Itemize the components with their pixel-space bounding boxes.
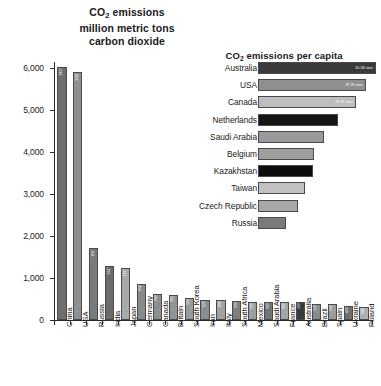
x-axis-tick — [102, 320, 103, 325]
x-axis-tick — [245, 320, 246, 325]
column-bar-value-label: 436 — [249, 303, 253, 309]
x-axis-tick — [277, 320, 278, 325]
bar-category-label: Saudi Arabia — [210, 132, 257, 142]
horizontal-bar-value-label: 20.58 tons — [355, 66, 373, 70]
x-axis-tick — [340, 320, 341, 325]
bar-row: USA19.78 tons — [196, 79, 376, 92]
horizontal-bar[interactable] — [258, 148, 314, 160]
y-axis-line — [54, 62, 55, 321]
column-bar-value-label: 468 — [217, 301, 221, 307]
y-axis-tick-label: 3,000 — [4, 189, 44, 199]
bar-row: Kazakhstan — [196, 165, 376, 178]
y-axis-tick-label: 4,000 — [4, 147, 44, 157]
x-axis-tick — [134, 320, 135, 325]
bar-row: Czech Republic — [196, 200, 376, 213]
x-axis-tick — [324, 320, 325, 325]
column-bar-value-label: 329 — [344, 307, 348, 313]
column-bar-value-label: 1,247 — [122, 268, 126, 277]
bar-category-label: Belgium — [227, 149, 257, 159]
x-axis-tick — [70, 320, 71, 325]
y-axis-tick — [50, 236, 54, 237]
y-axis-tick-label: 5,000 — [4, 105, 44, 115]
column-bar-value-label: 471 — [201, 301, 205, 307]
horizontal-bar[interactable] — [258, 217, 286, 229]
column-bar-value-label: 418 — [281, 303, 285, 309]
column-bar-value-label: 1,293 — [106, 266, 110, 275]
bar-row: Canada18.81 tons — [196, 96, 376, 109]
y-axis-tick-label: 2,000 — [4, 231, 44, 241]
bar-category-label: Czech Republic — [199, 201, 257, 211]
horizontal-bar[interactable] — [258, 182, 305, 194]
y-axis-tick — [50, 152, 54, 153]
y-axis-tick — [50, 194, 54, 195]
column-bar-value-label: 858 — [137, 285, 141, 291]
column-bar-value-label: 614 — [153, 295, 157, 301]
x-axis-tick — [165, 320, 166, 325]
column-bar-value-label: 1,704 — [90, 248, 94, 257]
x-axis-tick — [86, 320, 87, 325]
horizontal-bar-value-label: 19.78 tons — [345, 83, 363, 87]
column-bar-value-label: 444 — [233, 302, 237, 308]
column-bar-value-label: 6,018 — [58, 67, 62, 76]
x-axis-tick — [181, 320, 182, 325]
column-bar-value-label: 372 — [328, 305, 332, 311]
bar-row: Australia20.58 tons — [196, 62, 376, 75]
column-bar-value-label: 5,903 — [74, 72, 78, 81]
x-axis-tick — [261, 320, 262, 325]
bar-category-label: Netherlands — [212, 115, 257, 125]
horizontal-bar[interactable] — [258, 114, 338, 126]
chart-canvas: CO2 emissions million metric tons carbon… — [0, 0, 381, 386]
y-axis-tick-label: 1,000 — [4, 273, 44, 283]
bar-row: Saudi Arabia — [196, 131, 376, 144]
bar-row: Russia — [196, 217, 376, 230]
column-bar-value-label: 515 — [185, 299, 189, 305]
column-bar[interactable]: 5,903 — [73, 72, 82, 320]
bar-category-label: Taiwan — [231, 183, 257, 193]
horizontal-bar[interactable] — [258, 131, 324, 143]
bar-category-label: USA — [240, 80, 257, 90]
x-axis-tick — [118, 320, 119, 325]
horizontal-bar[interactable]: 20.58 tons — [258, 62, 376, 74]
horizontal-bar[interactable] — [258, 200, 298, 212]
bar-row: Belgium — [196, 148, 376, 161]
y-axis-tick-label: 6,000 — [4, 63, 44, 73]
x-axis-tick — [229, 320, 230, 325]
x-axis-tick — [356, 320, 357, 325]
x-axis-tick — [197, 320, 198, 325]
x-axis-tick — [54, 320, 55, 325]
bar-row: Taiwan — [196, 182, 376, 195]
bar-category-label: Australia — [225, 63, 257, 73]
x-axis-tick — [308, 320, 309, 325]
column-bar-value-label: 377 — [312, 305, 316, 311]
horizontal-bar[interactable] — [258, 165, 313, 177]
x-axis-tick — [293, 320, 294, 325]
y-axis-tick — [50, 278, 54, 279]
y-axis-tick — [50, 68, 54, 69]
bar-row: Netherlands — [196, 114, 376, 127]
horizontal-bar[interactable]: 19.78 tons — [258, 79, 366, 91]
x-axis-tick — [213, 320, 214, 325]
bar-category-label: Canada — [228, 97, 257, 107]
column-bar-value-label: 417 — [296, 304, 300, 310]
column-bar-value-label: 586 — [169, 296, 173, 302]
horizontal-bar[interactable]: 18.81 tons — [258, 96, 356, 108]
bar-category-label: Kazakhstan — [214, 166, 257, 176]
y-axis-tick-label: 0 — [4, 315, 44, 325]
column-bar[interactable]: 6,018 — [57, 67, 66, 320]
x-axis-tick — [372, 320, 373, 325]
column-bar-value-label: 424 — [265, 303, 269, 309]
bar-category-label: Russia — [232, 218, 257, 228]
y-axis-tick — [50, 110, 54, 111]
horizontal-bar-value-label: 18.81 tons — [335, 100, 353, 104]
x-axis-tick — [149, 320, 150, 325]
column-bar-value-label: 303 — [360, 308, 364, 314]
co2-per-capita-bar-chart: Australia20.58 tonsUSA19.78 tonsCanada18… — [196, 62, 376, 237]
